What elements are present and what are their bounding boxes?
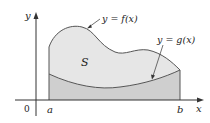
x-axis-label: x (196, 103, 202, 114)
x-axis-arrow-icon (197, 98, 204, 103)
x-tick-b: b (177, 104, 183, 115)
g-curve-label: y = g(x) (156, 34, 196, 45)
region-between-curves-diagram: y x 0 a b S y = f(x) y = g(x) (0, 0, 210, 123)
x-tick-a: a (47, 104, 53, 115)
diagram-canvas: y x 0 a b S y = f(x) y = g(x) (0, 0, 210, 123)
f-curve-label: y = f(x) (101, 13, 138, 24)
y-axis-label: y (24, 10, 31, 21)
origin-label: 0 (24, 104, 30, 114)
region-s-label: S (81, 56, 89, 69)
y-axis-arrow-icon (34, 12, 39, 19)
